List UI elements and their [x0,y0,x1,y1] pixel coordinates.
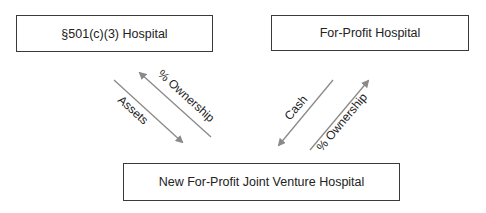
ownership-to-nonprofit-label: % Ownership [155,67,218,125]
cash-arrow-label: Cash [282,92,311,122]
flow-arrows: Assets % Ownership Cash % Ownership [0,0,486,213]
ownership-to-for-profit-label: % Ownership [314,90,371,154]
